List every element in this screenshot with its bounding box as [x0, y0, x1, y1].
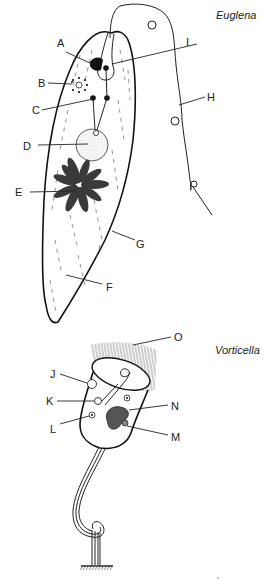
label-m: M — [171, 431, 180, 443]
label-c: C — [32, 104, 40, 116]
label-a: A — [57, 37, 65, 49]
label-h: H — [207, 91, 215, 103]
label-d: D — [23, 140, 31, 152]
paramylon-bodies — [71, 77, 88, 93]
label-n: N — [171, 400, 179, 412]
label-o: O — [174, 331, 183, 343]
food-vacuole-open — [88, 380, 97, 389]
nucleus — [76, 129, 108, 161]
label-e: E — [15, 186, 22, 198]
basal-body — [103, 65, 109, 71]
label-l: L — [50, 423, 56, 435]
label-j: J — [50, 368, 56, 380]
substrate-hatch — [80, 567, 112, 570]
label-f: F — [106, 281, 113, 293]
title-vorticella: Vorticella — [215, 344, 260, 356]
eyespot — [90, 58, 103, 71]
flagellum-node-1 — [148, 21, 156, 29]
contractile-vacuole — [95, 398, 102, 405]
specks — [217, 577, 219, 579]
food-vacuole-1-center — [91, 414, 93, 416]
contractile-stalk — [73, 447, 105, 565]
chloroplast-cluster — [52, 156, 109, 213]
micronucleus — [122, 420, 128, 426]
diagram-canvas: A B C D E F G H I Euglena — [0, 0, 279, 581]
label-g: G — [136, 238, 145, 250]
label-b: B — [38, 77, 45, 89]
label-i: I — [186, 36, 189, 48]
flagellum-node-2 — [171, 117, 179, 125]
title-euglena: Euglena — [216, 9, 256, 21]
flagellum-node-3 — [191, 181, 197, 187]
vorticella-illustration: O J K L N M Vorticella — [46, 331, 260, 579]
label-k: K — [46, 395, 54, 407]
food-vacuole-2-center — [126, 397, 128, 399]
euglena-illustration: A B C D E F G H I Euglena — [15, 4, 256, 323]
nucleolus — [93, 130, 98, 135]
